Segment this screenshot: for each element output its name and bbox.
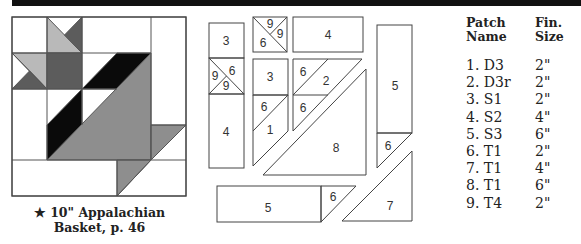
patch-number-label: 6 [261,100,268,114]
patch-number-label: 9 [267,17,274,31]
table-row: 1. D32" [466,57,564,74]
patch-size: 4" [535,160,550,177]
table-row: 9. T42" [466,195,564,212]
patch-number-label: 6 [300,65,307,79]
patch-size: 6" [535,126,550,143]
header-name: Name [466,30,535,44]
table-row: 5. S36" [466,126,564,143]
patch-number-label: 6 [385,139,392,153]
patch-number-label: 9 [223,79,230,93]
header-size: Size [535,30,564,44]
table-row: 6. T12" [466,143,564,160]
patch-number-label: 5 [265,201,272,215]
patch-size: 2" [535,195,550,212]
patch-name: 8. T1 [466,177,535,194]
patch-number-label: 6 [229,64,236,78]
table-row: 2. D3r2" [466,74,564,91]
patch-number-label: 6 [300,101,307,115]
patch-number-label: 4 [223,125,230,139]
patch-6-triangle-b [321,186,356,222]
table-row: 8. T16" [466,177,564,194]
patch-name: 2. D3r [466,74,535,91]
patch-size: 2" [535,91,550,108]
patch-size: 2" [535,74,550,91]
table-row: 3. S12" [466,91,564,108]
patch-name: 5. S3 [466,126,535,143]
header-patch: Patch [466,16,535,30]
patch-templates: 396949964361626856756 [0,0,430,244]
patch-number-label: 2 [323,74,330,88]
patch-number-label: 6 [330,190,337,204]
patch-name: 6. T1 [466,143,535,160]
patch-8-triangle [263,69,366,175]
patch-number-label: 6 [260,36,267,50]
patch-size: 6" [535,177,550,194]
patch-number-label: 7 [387,199,394,213]
patch-size: 2" [535,143,550,160]
patch-number-label: 5 [392,79,399,93]
patch-number-label: 1 [267,123,274,137]
patch-size: 4" [535,109,550,126]
header-fin: Fin. [535,16,564,30]
patch-number-label: 9 [212,69,219,83]
patch-name: 1. D3 [466,57,535,74]
patch-number-label: 8 [333,141,340,155]
patch-name: 7. T1 [466,160,535,177]
patch-6-triangle [377,133,412,168]
patch-table: Patch Name Fin. Size 1. D32" 2. D3r2" 3.… [466,16,564,212]
patch-number-label: 4 [325,28,332,42]
table-header: Patch Name Fin. Size [466,16,564,44]
patch-number-label: 3 [267,70,274,84]
patch-size: 2" [535,57,550,74]
patch-name: 9. T4 [466,195,535,212]
table-row: 7. T14" [466,160,564,177]
table-row: 4. S24" [466,109,564,126]
patch-number-label: 3 [223,34,230,48]
patch-number-label: 9 [277,27,284,41]
patch-name: 4. S2 [466,109,535,126]
patch-name: 3. S1 [466,91,535,108]
